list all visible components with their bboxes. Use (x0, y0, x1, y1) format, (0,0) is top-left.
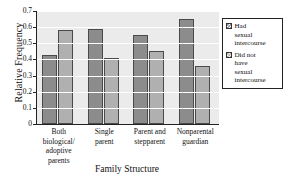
x-axis-tick-label-line: biological/ (36, 137, 82, 147)
y-axis-tick-label: 0.1 (14, 104, 32, 112)
bar (58, 30, 73, 124)
legend-swatch-icon (226, 52, 232, 58)
x-axis-tick-label: Nonparentalguardian (173, 127, 219, 146)
y-axis-tick-labels: 00.10.20.30.40.50.60.7 (14, 7, 32, 128)
x-axis-tick-label-line: adoptive (36, 146, 82, 156)
legend-entry[interactable]: Did nothavesexualintercourse (226, 51, 280, 85)
legend-label: Hadsexualintercourse (235, 22, 266, 48)
legend-swatch-icon (226, 23, 232, 29)
bar (149, 51, 164, 124)
gridline (37, 92, 219, 93)
y-axis-tick-mark (33, 108, 36, 109)
gridline (37, 108, 219, 109)
bar (133, 35, 148, 124)
gridline (37, 11, 219, 12)
x-axis-tick-label-line: Single (82, 127, 128, 137)
y-axis-tick-label: 0.2 (14, 88, 32, 96)
gridline (37, 76, 219, 77)
gridline (37, 59, 219, 60)
x-axis-title: Family Structure (36, 164, 218, 174)
legend-label-line: sexual (235, 68, 266, 77)
x-axis-tick-label-line: Parent and (127, 127, 173, 137)
x-axis-tick-label: Bothbiological/adoptiveparents (36, 127, 82, 165)
x-axis-tick-label-line: parent (82, 137, 128, 147)
y-axis-tick-mark (33, 43, 36, 44)
legend-label-line: sexual (235, 31, 266, 40)
y-axis-tick-mark (33, 59, 36, 60)
gridline (37, 27, 219, 28)
y-axis-tick-mark (33, 27, 36, 28)
x-axis-tick-label-line: guardian (173, 137, 219, 147)
y-axis-tick-label: 0.7 (14, 7, 32, 15)
x-axis-tick-label-line: stepparent (127, 137, 173, 147)
bar (42, 55, 57, 124)
bar-chart: Relative Frequency 00.10.20.30.40.50.60.… (0, 0, 287, 181)
chart-legend: HadsexualintercourseDid nothavesexualint… (222, 18, 283, 89)
legend-entry[interactable]: Hadsexualintercourse (226, 22, 280, 48)
x-axis-tick-label-line: Nonparental (173, 127, 219, 137)
x-axis-tick-label: Singleparent (82, 127, 128, 146)
x-axis-tick-label-line: Both (36, 127, 82, 137)
y-axis-tick-label: 0.3 (14, 72, 32, 80)
legend-label-line: intercourse (235, 39, 266, 48)
legend-label-line: have (235, 59, 266, 68)
legend-label-line: Did not (235, 51, 266, 60)
y-axis-tick-mark (33, 11, 36, 12)
y-axis-tick-label: 0.6 (14, 23, 32, 31)
legend-label-line: Had (235, 22, 266, 31)
plot-area (36, 11, 219, 125)
y-axis-tick-label: 0 (14, 120, 32, 128)
y-axis-tick-mark (33, 92, 36, 93)
x-axis-tick-label: Parent andstepparent (127, 127, 173, 146)
legend-label-line: intercourse (235, 76, 266, 85)
y-axis-tick-label: 0.4 (14, 55, 32, 63)
gridline (37, 43, 219, 44)
y-axis-tick-label: 0.5 (14, 39, 32, 47)
y-axis-tick-mark (33, 76, 36, 77)
y-axis-tick-mark (33, 124, 36, 125)
legend-label: Did nothavesexualintercourse (235, 51, 266, 85)
